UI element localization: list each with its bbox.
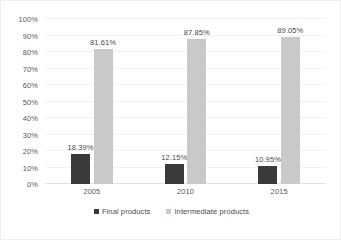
bar-value-label: 81.61% — [90, 38, 116, 47]
bar-final-products: 18.39% — [71, 154, 90, 184]
y-axis: 0%10%20%30%40%50%60%70%80%90%100% — [1, 19, 41, 184]
bar-intermediate-products: 89.05% — [281, 37, 300, 184]
bar-value-label: 89.05% — [277, 26, 303, 35]
y-axis-tick-label: 20% — [23, 147, 38, 156]
bar-intermediate-products: 87.85% — [187, 39, 206, 184]
bar-intermediate-products: 81.61% — [94, 49, 113, 184]
y-axis-tick-label: 0% — [27, 180, 38, 189]
bar-value-label: 10.95% — [255, 155, 281, 164]
x-axis: 200520102015 — [45, 187, 326, 201]
bar-group: 18.39%81.61% — [45, 19, 139, 184]
legend-swatch-icon — [94, 209, 99, 214]
legend-swatch-icon — [166, 209, 171, 214]
x-axis-tick-label: 2005 — [83, 187, 100, 196]
legend-label: Final products — [102, 207, 151, 216]
y-axis-tick-label: 80% — [23, 48, 38, 57]
plot-area: 18.39%81.61%12.15%87.85%10.95%89.05% — [45, 19, 326, 184]
y-axis-tick-label: 50% — [23, 97, 38, 106]
y-axis-tick-label: 100% — [18, 15, 38, 24]
y-axis-tick-label: 10% — [23, 163, 38, 172]
y-axis-tick-label: 70% — [23, 64, 38, 73]
y-axis-tick-label: 40% — [23, 114, 38, 123]
bar-final-products: 10.95% — [258, 166, 277, 184]
bar-value-label: 12.15% — [161, 153, 187, 162]
bar-chart: 0%10%20%30%40%50%60%70%80%90%100% 18.39%… — [0, 0, 341, 240]
bar-value-label: 87.85% — [184, 28, 210, 37]
bar-final-products: 12.15% — [165, 164, 184, 184]
y-axis-tick-label: 90% — [23, 31, 38, 40]
legend-entry[interactable]: Final products — [94, 207, 151, 216]
legend-entry[interactable]: Intermediate products — [166, 207, 249, 216]
y-axis-tick-label: 60% — [23, 81, 38, 90]
bar-group: 10.95%89.05% — [232, 19, 326, 184]
x-axis-tick-label: 2015 — [271, 187, 288, 196]
y-axis-tick-label: 30% — [23, 130, 38, 139]
legend-label: Intermediate products — [174, 207, 249, 216]
bar-value-label: 18.39% — [68, 143, 94, 152]
bar-group: 12.15%87.85% — [139, 19, 233, 184]
x-axis-tick-label: 2010 — [177, 187, 194, 196]
chart-legend: Final productsIntermediate products — [1, 207, 341, 216]
